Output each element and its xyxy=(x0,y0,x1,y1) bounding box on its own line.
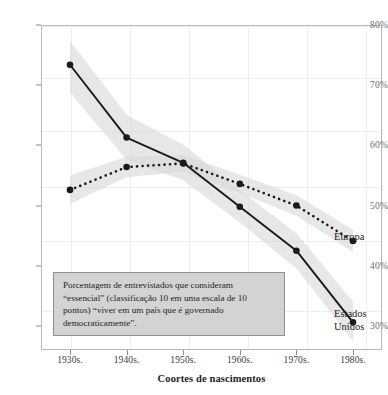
gridline-60 xyxy=(42,131,381,132)
x-tick-label: 1940s. xyxy=(104,355,150,365)
y-tick-mark xyxy=(36,145,41,146)
gridline-1980s xyxy=(366,26,367,349)
gridline-40 xyxy=(42,241,381,242)
y-tick-mark xyxy=(36,325,41,326)
y-tick-mark xyxy=(36,85,41,86)
x-tick-label: 1960s. xyxy=(217,355,263,365)
x-tick-label: 1930s. xyxy=(47,355,93,365)
x-tick-mark xyxy=(183,350,184,355)
chart-figure: 80%70%60%50%40%30% 1930s.1940s.1950s.196… xyxy=(0,0,388,395)
x-tick-label: 1950s. xyxy=(160,355,206,365)
x-tick-mark xyxy=(127,350,128,355)
y-tick-mark xyxy=(36,265,41,266)
x-tick-mark xyxy=(70,350,71,355)
x-axis-title: Coortes de nascimentos xyxy=(41,373,382,384)
y-tick-label: 40% xyxy=(354,261,388,271)
x-tick-label: 1980s. xyxy=(330,355,376,365)
y-tick-label: 50% xyxy=(354,201,388,211)
x-tick-mark xyxy=(240,350,241,355)
x-tick-mark xyxy=(296,350,297,355)
gridline-50 xyxy=(42,187,381,188)
annotation-box: Porcentagem de entrevistados que conside… xyxy=(53,272,285,336)
gridline-70 xyxy=(42,78,381,79)
y-tick-label: 70% xyxy=(354,80,388,90)
series-label-europa: Europa xyxy=(334,231,364,244)
y-tick-label: 60% xyxy=(354,140,388,150)
y-tick-mark xyxy=(36,25,41,26)
y-tick-label: 80% xyxy=(354,20,388,30)
series-label-estados-unidos: Estados Unidos xyxy=(334,308,367,333)
y-tick-mark xyxy=(36,205,41,206)
gridline-80 xyxy=(42,26,381,27)
gridline-1970s xyxy=(307,26,308,349)
x-tick-label: 1970s. xyxy=(273,355,319,365)
x-tick-mark xyxy=(353,350,354,355)
